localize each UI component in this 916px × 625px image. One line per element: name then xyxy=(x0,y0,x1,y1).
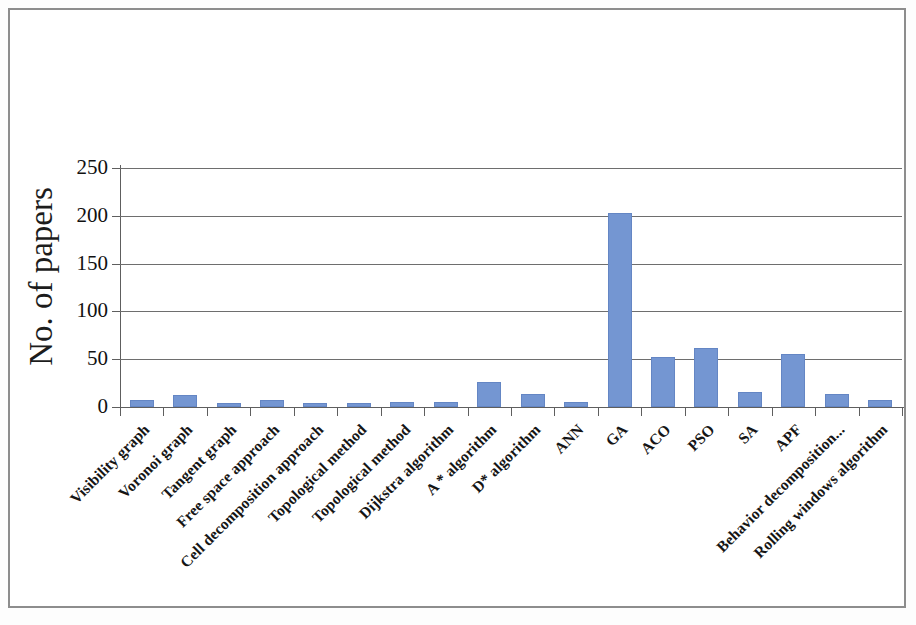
x-axis-line xyxy=(114,407,904,408)
bar xyxy=(564,402,588,407)
bar-slot xyxy=(685,168,728,407)
bar-slot xyxy=(381,168,424,407)
x-tick-mark xyxy=(337,407,338,416)
plot-area xyxy=(120,168,902,407)
x-tick-mark xyxy=(294,407,295,416)
x-tick-mark xyxy=(641,407,642,416)
x-tick-mark xyxy=(511,407,512,416)
x-tick-mark xyxy=(554,407,555,416)
bar-slot xyxy=(250,168,293,407)
bar-slot xyxy=(424,168,467,407)
bar xyxy=(303,403,327,407)
x-tick-mark xyxy=(902,407,903,416)
x-tick-mark xyxy=(207,407,208,416)
bar-slot xyxy=(728,168,771,407)
bar xyxy=(825,394,849,407)
bar-slot xyxy=(772,168,815,407)
bar xyxy=(477,382,501,407)
x-tick-mark xyxy=(685,407,686,416)
bar xyxy=(608,213,632,407)
bar-slot xyxy=(598,168,641,407)
bar xyxy=(434,402,458,407)
bar-slot xyxy=(815,168,858,407)
bar xyxy=(260,400,284,407)
bar-slot xyxy=(641,168,684,407)
x-tick-mark xyxy=(468,407,469,416)
bar xyxy=(347,403,371,407)
x-tick-mark xyxy=(424,407,425,416)
y-tick-label: 50 xyxy=(54,346,120,371)
bar xyxy=(521,394,545,407)
bar-slot xyxy=(511,168,554,407)
x-tick-mark xyxy=(815,407,816,416)
bar xyxy=(217,403,241,407)
x-tick-mark xyxy=(728,407,729,416)
bar xyxy=(130,400,154,407)
bar-slot xyxy=(554,168,597,407)
bar-slot xyxy=(859,168,902,407)
y-tick-label: 100 xyxy=(54,298,120,323)
x-tick-mark xyxy=(120,407,121,416)
x-tick-mark xyxy=(598,407,599,416)
bar-slot xyxy=(120,168,163,407)
y-tick-label: 150 xyxy=(54,251,120,276)
x-tick-mark xyxy=(381,407,382,416)
bar xyxy=(173,395,197,407)
y-tick-label: 250 xyxy=(54,155,120,180)
bar-slot xyxy=(294,168,337,407)
x-tick-mark xyxy=(250,407,251,416)
bar xyxy=(868,400,892,407)
bar xyxy=(390,402,414,407)
bar-slot xyxy=(163,168,206,407)
x-tick-mark xyxy=(859,407,860,416)
x-tick-mark xyxy=(772,407,773,416)
bar-slot xyxy=(207,168,250,407)
figure-canvas: No. of papers 050100150200250 Visibility… xyxy=(0,0,916,625)
bar-slot xyxy=(337,168,380,407)
bar xyxy=(651,357,675,407)
figure-border: No. of papers 050100150200250 Visibility… xyxy=(8,8,906,608)
bar xyxy=(738,392,762,407)
y-tick-label: 0 xyxy=(54,394,120,419)
bar xyxy=(781,354,805,407)
y-tick-label: 200 xyxy=(54,203,120,228)
x-tick-mark xyxy=(163,407,164,416)
bar xyxy=(694,348,718,407)
bar-slot xyxy=(468,168,511,407)
